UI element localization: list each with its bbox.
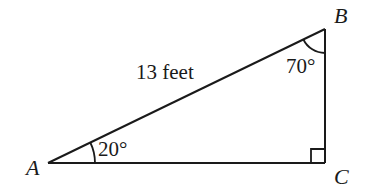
angle-arc-a bbox=[90, 143, 95, 164]
angle-label-a: 20° bbox=[98, 139, 127, 160]
vertex-label-b: B bbox=[334, 5, 347, 27]
vertex-label-c: C bbox=[334, 166, 349, 188]
vertex-label-a: A bbox=[26, 157, 39, 179]
angle-arc-b bbox=[303, 40, 325, 54]
side-label-ab: 13 feet bbox=[136, 62, 194, 83]
right-angle-marker-c bbox=[311, 149, 325, 163]
angle-label-b: 70° bbox=[286, 56, 315, 77]
triangle-diagram bbox=[0, 0, 365, 192]
